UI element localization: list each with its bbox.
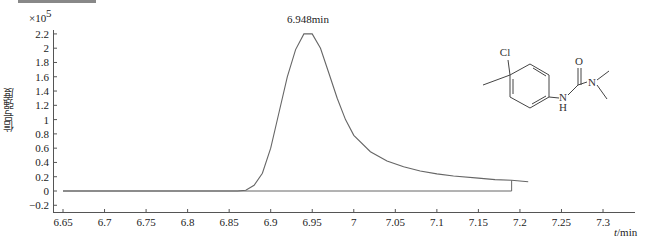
y-tick-label: 2.2 <box>35 28 49 40</box>
bond <box>530 64 549 75</box>
bond <box>568 85 578 95</box>
y-tick-label: 0.6 <box>35 142 49 154</box>
y-tick-label: 2 <box>44 42 50 54</box>
x-tick-label: 7.2 <box>513 216 527 228</box>
chromatogram-line <box>63 34 528 191</box>
y-multiplier-exponent: 5 <box>46 7 52 19</box>
x-tick-label: 6.95 <box>303 216 323 228</box>
molecule-structure: ClNHON <box>483 46 609 113</box>
x-tick-label: 6.8 <box>181 216 195 228</box>
x-axis-label: t/min <box>614 226 638 238</box>
x-tick-label: 6.85 <box>220 216 240 228</box>
x-tick-label: 7 <box>351 216 357 228</box>
bond <box>530 97 549 108</box>
y-tick-label: 0.8 <box>35 128 49 140</box>
atom-h: H <box>559 101 567 113</box>
y-tick-label: 0.4 <box>35 156 49 168</box>
y-tick-label: 0.2 <box>35 171 49 183</box>
x-tick-label: 7.15 <box>469 216 489 228</box>
x-tick-label: 7.3 <box>596 216 610 228</box>
bond <box>510 64 530 75</box>
x-tick-label: 7.1 <box>430 216 444 228</box>
atom-n: N <box>588 76 596 88</box>
y-tick-label: 1.6 <box>35 71 49 83</box>
peak-annotation: 6.948min <box>287 13 329 25</box>
bond <box>549 97 559 98</box>
x-tick-label: 6.9 <box>264 216 278 228</box>
y-tick-label: −0.2 <box>29 199 49 211</box>
y-tick-label: 0 <box>44 185 50 197</box>
y-axis-label: 信号强度 <box>2 88 18 132</box>
chromatogram-chart: −0.200.20.40.60.811.21.41.61.822.26.656.… <box>0 0 651 245</box>
bond <box>597 85 607 99</box>
bond <box>483 75 510 85</box>
atom-cl: Cl <box>500 46 510 58</box>
bond <box>597 71 609 80</box>
x-tick-label: 6.75 <box>136 216 156 228</box>
x-tick-label: 7.25 <box>552 216 572 228</box>
y-tick-label: 1.4 <box>35 85 49 97</box>
y-tick-label: 1 <box>44 114 50 126</box>
y-tick-label: 1.2 <box>35 99 49 111</box>
bond <box>578 82 587 85</box>
y-multiplier: ×10 <box>29 12 47 24</box>
x-tick-label: 6.7 <box>98 216 112 228</box>
x-tick-label: 7.05 <box>386 216 406 228</box>
y-tick-label: 1.8 <box>35 56 49 68</box>
x-tick-label: 6.65 <box>53 216 73 228</box>
bond <box>510 97 530 108</box>
bond <box>508 60 510 75</box>
atom-o: O <box>575 55 583 67</box>
